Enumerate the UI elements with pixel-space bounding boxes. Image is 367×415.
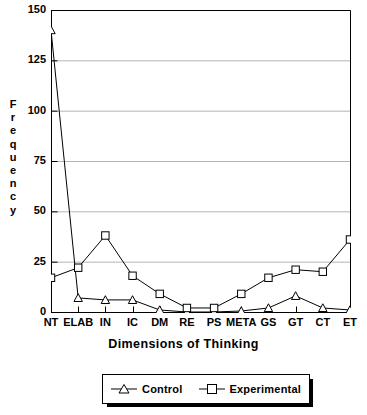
x-tick-label-ct: CT [315, 316, 330, 329]
plot-area [51, 10, 351, 313]
x-tick-label-nt: NT [44, 316, 59, 329]
y-tick-label: 50 [12, 205, 46, 216]
legend-label-experimental: Experimental [230, 383, 301, 395]
data-point-experimental-in [102, 232, 109, 239]
x-tick-label-dm: DM [151, 316, 168, 329]
series-line-control [51, 30, 350, 312]
data-point-control-ct [319, 304, 327, 312]
plot-svg [51, 10, 351, 313]
data-point-experimental-ps [210, 304, 217, 311]
data-point-experimental-gs [265, 274, 272, 281]
y-tick-label: 100 [12, 105, 46, 116]
legend: Control Experimental [102, 374, 310, 404]
data-point-experimental-elab [74, 264, 81, 271]
x-tick-label-in: IN [100, 316, 111, 329]
y-tick-label: 75 [12, 155, 46, 166]
square-marker-icon [199, 383, 225, 395]
x-axis-title: Dimensions of Thinking [0, 337, 367, 351]
data-point-experimental-ct [319, 268, 326, 275]
x-tick-label-elab: ELAB [63, 316, 93, 329]
data-point-experimental-et [346, 236, 351, 243]
x-tick-label-ps: PS [207, 316, 222, 329]
y-tick-label: 25 [12, 256, 46, 267]
data-point-experimental-ic [129, 272, 136, 279]
data-point-control-gt [291, 292, 299, 300]
y-tick-label: 150 [12, 4, 46, 15]
x-tick-label-ic: IC [127, 316, 138, 329]
data-point-experimental-gt [292, 266, 299, 273]
frequency-line-chart: F r e q u e n c y 0255075100125150 NTELA… [0, 0, 367, 415]
data-point-control-nt [51, 26, 55, 34]
data-point-experimental-re [183, 304, 190, 311]
data-point-control-gs [264, 304, 272, 312]
data-point-experimental-nt [51, 274, 55, 281]
x-tick-label-gs: GS [261, 316, 277, 329]
data-point-control-meta [237, 307, 245, 313]
legend-entry-experimental[interactable]: Experimental [199, 383, 301, 395]
series-line-experimental [51, 235, 350, 307]
legend-label-control: Control [142, 383, 183, 395]
x-axis-tick-labels: NTELABINICDMREPSMETAGSGTCTET [0, 316, 367, 332]
legend-entry-control[interactable]: Control [111, 383, 183, 395]
x-tick-label-meta: META [226, 316, 256, 329]
y-axis-tick-labels: 0255075100125150 [12, 0, 46, 330]
triangle-marker-icon [111, 383, 137, 395]
x-tick-label-re: RE [179, 316, 194, 329]
data-point-experimental-meta [238, 290, 245, 297]
y-tick-label: 125 [12, 54, 46, 65]
x-tick-label-et: ET [343, 316, 357, 329]
data-point-experimental-dm [156, 290, 163, 297]
x-tick-label-gt: GT [288, 316, 303, 329]
data-point-control-elab [74, 294, 82, 302]
